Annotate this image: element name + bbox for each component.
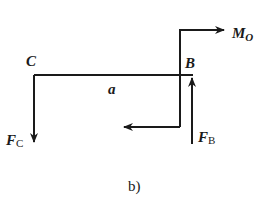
fc-label: FC	[5, 132, 23, 149]
free-body-diagram: C B a MO FC FB b)	[0, 0, 272, 210]
point-b-label: B	[184, 55, 195, 71]
fb-label: FB	[197, 129, 215, 146]
figure-caption: b)	[128, 178, 141, 195]
dimension-a-label: a	[108, 81, 116, 97]
point-c-label: C	[26, 53, 37, 69]
moment-mo-arrow	[180, 30, 224, 127]
mo-label: MO	[231, 25, 253, 43]
